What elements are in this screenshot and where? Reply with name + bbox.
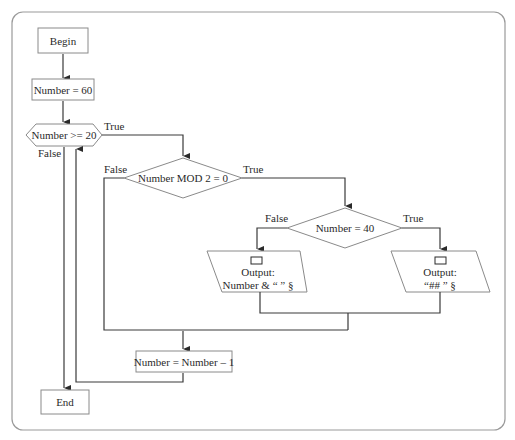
mod-false-label: False [104,163,127,175]
mod-true-label: True [243,163,263,175]
loop-condition-label: Number >= 20 [32,129,97,141]
begin-node: Begin [38,28,88,53]
eq-true-label: True [403,212,423,224]
eq-false-label: False [265,212,288,224]
output-false-line2: Number & “ ” § [223,279,294,291]
flowchart-canvas: Begin Number = 60 Number >= 20 True Fals… [0,0,515,440]
mod-condition-label: Number MOD 2 = 0 [138,172,228,184]
output-true-node: Output: “## ” § [391,251,490,292]
init-label: Number = 60 [34,84,93,96]
begin-label: Begin [50,35,77,47]
diagram-frame [12,12,505,430]
output-icon [435,257,446,264]
end-node: End [41,390,89,414]
output-true-line2: “## ” § [424,279,456,291]
decrement-node: Number = Number – 1 [134,351,234,372]
output-false-node: Output: Number & “ ” § [207,251,307,292]
eq-condition-label: Number = 40 [316,222,375,234]
init-node: Number = 60 [32,79,94,100]
loop-true-label: True [104,120,124,132]
decrement-label: Number = Number – 1 [134,356,234,368]
output-false-line1: Output: [241,266,275,278]
loop-false-label: False [38,147,61,159]
end-label: End [56,396,74,408]
output-true-line1: Output: [423,266,457,278]
loop-condition-node: Number >= 20 [26,124,102,146]
output-icon [251,257,262,264]
